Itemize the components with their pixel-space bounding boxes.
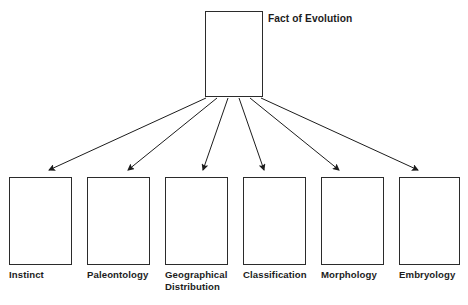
branch-node-box — [243, 177, 306, 265]
branch-node-label: Paleontology — [87, 269, 148, 281]
branch-node-box — [9, 177, 72, 265]
branch-arrow — [49, 98, 206, 170]
branch-node-box — [165, 177, 228, 265]
branch-node-box — [87, 177, 150, 265]
branch-node-label: Instinct — [9, 269, 44, 281]
branch-node-box — [321, 177, 384, 265]
branch-arrow — [128, 98, 217, 170]
branch-arrow — [239, 98, 264, 170]
evolution-diagram: Fact of Evolution InstinctPaleontologyGe… — [0, 0, 468, 305]
branch-node-label: Classification — [243, 269, 307, 281]
branch-arrow — [203, 98, 228, 170]
branch-node-box — [399, 177, 460, 265]
branch-node-label: Embryology — [399, 269, 455, 281]
branch-arrow — [261, 98, 418, 170]
arrow-group — [49, 98, 418, 170]
branch-node-label: Geographical Distribution — [165, 269, 228, 292]
root-node-label: Fact of Evolution — [268, 13, 352, 24]
branch-arrow — [250, 98, 339, 170]
root-node-box — [205, 11, 263, 97]
branch-node-label: Morphology — [321, 269, 377, 281]
